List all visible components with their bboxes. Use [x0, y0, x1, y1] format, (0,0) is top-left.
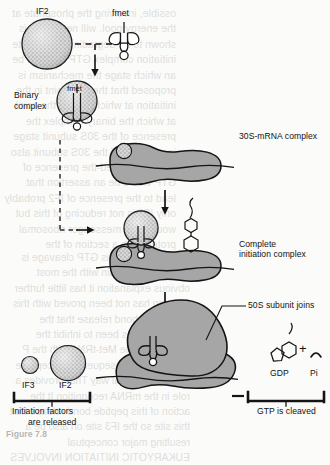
if3-on-30s	[116, 143, 131, 158]
label-30s-mrna-complex: 30S-mRNA complex	[239, 131, 317, 141]
if2-sphere-top	[22, 19, 72, 69]
label-if2-bottom: IF2	[59, 380, 72, 390]
label-complete-line2: initiation complex	[239, 249, 306, 259]
label-gdp: GDP	[270, 368, 289, 378]
label-binary-complex-line1: Binary	[14, 90, 39, 100]
label-fmet-binary: fmet	[67, 84, 82, 94]
figure-caption: Figure 7.8	[6, 429, 47, 439]
label-gtp-is-cleaved: GTP is cleaved	[257, 406, 316, 416]
label-if3-bottom: IF3	[22, 380, 35, 390]
label-50s-subunit-joins: 50S subunit joins	[248, 300, 314, 310]
label-released-line1: Initiation factors	[12, 406, 73, 416]
label-plus-sign: +	[299, 344, 307, 354]
label-fmet-top: fmet	[112, 8, 129, 18]
gdp-molecule	[271, 323, 296, 361]
if3-on-complete	[116, 246, 131, 261]
dashed-merge-arrow	[75, 44, 112, 62]
gtp-molecule	[184, 198, 198, 252]
ribosome-70s-complex	[96, 300, 238, 389]
label-released-line2: are released	[28, 417, 76, 427]
bracket-gtp-cleaved	[248, 392, 324, 406]
ribosome-50s-subunit	[127, 300, 227, 376]
label-pi: Pi	[310, 368, 318, 378]
bracket-initiation-factors	[14, 393, 90, 406]
label-binary-complex-line2: complex	[14, 101, 46, 111]
if2-sphere-released	[51, 346, 86, 381]
if3-sphere-released	[22, 357, 39, 374]
trna-cloverleaf-top	[109, 22, 139, 60]
pi-molecule	[311, 353, 321, 357]
ribosome-30s-mrna-complex	[96, 143, 234, 184]
label-complete-line1: Complete	[239, 239, 276, 249]
label-if2-top: IF2	[36, 6, 49, 16]
